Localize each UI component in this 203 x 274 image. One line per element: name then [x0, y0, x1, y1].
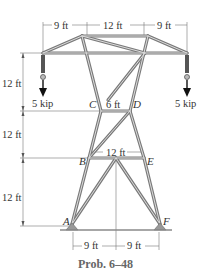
joint-c-label: C — [89, 98, 97, 110]
figure-caption: Prob. 6–48 — [78, 257, 133, 271]
joint-a-label: A — [62, 215, 70, 227]
load-right-label: 5 kip — [175, 98, 196, 109]
dim-bottom-left: 9 ft — [84, 240, 98, 251]
truss-diagram: 9 ft 12 ft 9 ft 12 ft 12 ft 12 ft 5 kip … — [0, 0, 203, 274]
joint-b-label: B — [79, 155, 86, 167]
dimension-lines — [20, 22, 187, 250]
right-insulator — [185, 55, 190, 80]
dim-top-middle: 12 ft — [103, 20, 123, 31]
joint-f-label: F — [162, 215, 170, 227]
dim-top-right: 9 ft — [157, 20, 171, 31]
dim-left-3: 12 ft — [2, 192, 22, 203]
joint-e-label: E — [146, 155, 154, 167]
dim-cd: 6 ft — [106, 99, 120, 110]
dim-be: 12 ft — [106, 147, 126, 158]
joint-d-label: D — [132, 98, 141, 110]
left-load-arrow-icon — [39, 80, 47, 97]
dim-bottom-right: 9 ft — [127, 240, 141, 251]
right-load-arrow-icon — [183, 80, 191, 97]
truss-members — [43, 36, 187, 224]
dim-left-2: 12 ft — [2, 129, 22, 140]
dim-left-1: 12 ft — [2, 78, 22, 89]
left-insulator — [41, 55, 46, 80]
load-left-label: 5 kip — [32, 98, 53, 109]
dim-top-left: 9 ft — [54, 20, 68, 31]
